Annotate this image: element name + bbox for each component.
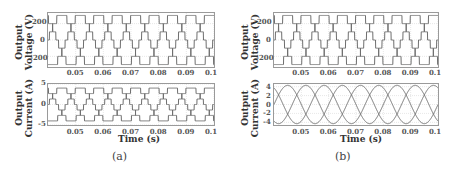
xtick: 0.08 xyxy=(374,127,391,136)
panel-a-current-ylabel: Output Current (A) xyxy=(14,78,34,138)
ytick: 0 xyxy=(266,35,271,44)
ylabel-line1: Output xyxy=(14,78,24,138)
xtick: 0.09 xyxy=(402,127,419,136)
xtick: 0.06 xyxy=(94,127,111,136)
xtick: 0.07 xyxy=(347,127,364,136)
xtick: 0.1 xyxy=(429,127,441,136)
ytick: -200 xyxy=(30,53,48,62)
xtick: 0.08 xyxy=(374,68,391,77)
panel-b-voltage-plot xyxy=(273,12,439,68)
ylabel-line1: Output xyxy=(14,12,24,72)
panel-a-caption: (a) xyxy=(112,150,127,163)
ytick: 5 xyxy=(41,78,46,87)
panel-b-caption: (b) xyxy=(335,150,351,163)
ytick: -4 xyxy=(263,117,271,126)
xtick: 0.08 xyxy=(150,127,167,136)
xtick: 0.06 xyxy=(94,68,111,77)
panel-b-current-ylabel: Output Current (A) xyxy=(240,78,260,138)
ytick: 200 xyxy=(257,17,272,26)
xtick: 0.07 xyxy=(122,68,139,77)
xtick: 0.09 xyxy=(402,68,419,77)
panel-b-current-plot xyxy=(273,83,439,126)
ytick: 200 xyxy=(32,17,47,26)
xtick: 0.09 xyxy=(177,127,194,136)
xtick: 0.08 xyxy=(150,68,167,77)
ylabel-line1: Output xyxy=(240,78,250,138)
xtick: 0.1 xyxy=(205,127,217,136)
ytick: -2 xyxy=(263,108,271,117)
xtick: 0.07 xyxy=(122,127,139,136)
xtick: 0.1 xyxy=(205,68,217,77)
xtick: 0.06 xyxy=(320,68,337,77)
xtick: 0.05 xyxy=(292,68,309,77)
panel-a-current-plot xyxy=(47,83,215,126)
xtick: 0.05 xyxy=(67,68,84,77)
ytick: 4 xyxy=(266,82,271,91)
ylabel-line2: Current (A) xyxy=(24,78,34,138)
xtick: 0.05 xyxy=(292,127,309,136)
ytick: -200 xyxy=(256,53,274,62)
panel-a-voltage-plot xyxy=(47,12,215,68)
ylabel-line2: Current (A) xyxy=(250,78,260,138)
ytick: 2 xyxy=(266,91,271,100)
ytick: 0 xyxy=(40,35,45,44)
ytick: 0 xyxy=(41,99,46,108)
xtick: 0.06 xyxy=(320,127,337,136)
xtick: 0.09 xyxy=(177,68,194,77)
xtick: 0.05 xyxy=(67,127,84,136)
xtick: 0.1 xyxy=(429,68,441,77)
ylabel-line1: Output xyxy=(240,12,250,72)
panel-a-voltage-ylabel: Output Voltage (V) xyxy=(14,12,34,72)
ytick: -5 xyxy=(38,119,46,128)
xtick: 0.07 xyxy=(347,68,364,77)
